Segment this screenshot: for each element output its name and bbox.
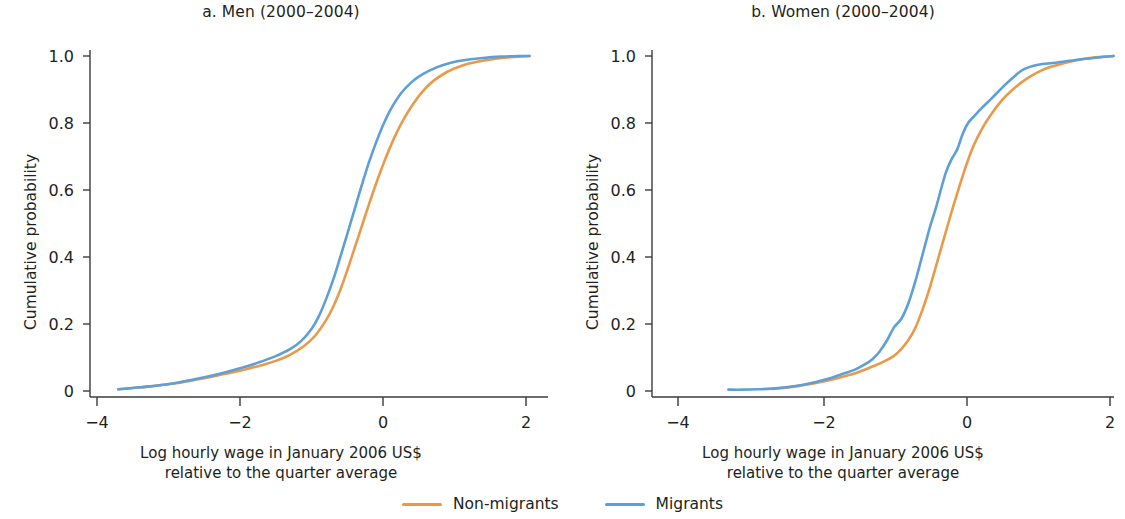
y-tick-label: 0.2	[611, 315, 636, 334]
curve-migrants-women	[728, 56, 1113, 390]
x-tick-label: −2	[228, 413, 252, 432]
legend-label-non-migrants: Non-migrants	[453, 495, 559, 513]
y-tick-label: 0.2	[49, 315, 74, 334]
curve-non-migrants-men	[118, 56, 529, 389]
y-tick-labels-women: 1.0 0.8 0.6 0.4 0.2 0	[611, 47, 636, 401]
legend-item-migrants: Migrants	[605, 495, 723, 513]
x-ticks-men	[97, 397, 526, 406]
x-axis-caption-line2-men: relative to the quarter average	[0, 463, 562, 483]
legend-item-non-migrants: Non-migrants	[402, 495, 559, 513]
x-tick-label: 0	[962, 413, 972, 432]
x-axis-caption-line1-women: Log hourly wage in January 2006 US$	[562, 443, 1124, 463]
axes-men	[90, 50, 548, 397]
y-tick-label: 0	[64, 382, 74, 401]
legend-line-swatch-non-migrants	[402, 503, 442, 506]
y-tick-label: 1.0	[611, 47, 636, 66]
x-ticks-women	[678, 397, 1110, 406]
y-tick-label: 1.0	[49, 47, 74, 66]
x-tick-labels-men: −4 −2 0 2	[85, 413, 531, 432]
x-axis-caption-line1-men: Log hourly wage in January 2006 US$	[0, 443, 562, 463]
x-tick-labels-women: −4 −2 0 2	[666, 413, 1115, 432]
y-tick-labels-men: 1.0 0.8 0.6 0.4 0.2 0	[49, 47, 74, 401]
y-tick-label: 0	[626, 382, 636, 401]
legend-line-swatch-migrants	[605, 503, 645, 506]
panel-women: b. Women (2000–2004) Cumulative probabil…	[562, 0, 1124, 492]
x-tick-label: 0	[378, 413, 388, 432]
x-tick-label: −2	[812, 413, 836, 432]
y-tick-label: 0.6	[49, 181, 74, 200]
x-tick-label: −4	[85, 413, 109, 432]
plot-area-women: 1.0 0.8 0.6 0.4 0.2 0 −4 −2 0 2	[562, 0, 1124, 440]
x-tick-label: 2	[1105, 413, 1115, 432]
x-tick-label: −4	[666, 413, 690, 432]
y-tick-label: 0.4	[49, 248, 74, 267]
curve-migrants-men	[118, 56, 529, 389]
y-tick-label: 0.8	[611, 114, 636, 133]
y-ticks-men	[83, 56, 90, 391]
y-ticks-women	[645, 56, 652, 391]
y-tick-label: 0.4	[611, 248, 636, 267]
x-axis-caption-line2-women: relative to the quarter average	[562, 463, 1124, 483]
legend-label-migrants: Migrants	[656, 495, 723, 513]
plot-area-men: 1.0 0.8 0.6 0.4 0.2 0 −4 −2 0 2	[0, 0, 562, 440]
y-tick-label: 0.6	[611, 181, 636, 200]
y-tick-label: 0.8	[49, 114, 74, 133]
curve-non-migrants-women	[772, 56, 1114, 389]
figure-root: a. Men (2000–2004) Cumulative probabilit…	[0, 0, 1125, 519]
x-tick-label: 2	[521, 413, 531, 432]
chart-legend: Non-migrants Migrants	[0, 489, 1125, 519]
panel-men: a. Men (2000–2004) Cumulative probabilit…	[0, 0, 562, 492]
